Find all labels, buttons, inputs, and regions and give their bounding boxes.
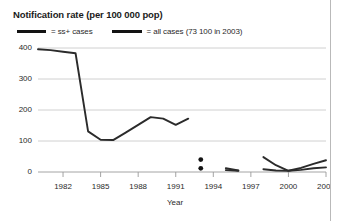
x-axis-tick-label: 1994 <box>196 182 230 191</box>
x-axis-tick-label: 2000 <box>271 182 305 191</box>
series-line <box>226 170 239 171</box>
gridlines <box>38 48 326 172</box>
data-markers-layer <box>198 157 203 170</box>
x-axis-tick-label: 1991 <box>159 182 193 191</box>
data-point-marker <box>198 157 203 162</box>
y-axis-tick-label: 200 <box>8 105 32 114</box>
y-axis-tick-label: 0 <box>8 167 32 176</box>
x-axis-tick-label: 1982 <box>46 182 80 191</box>
x-axis-tick-label: 1988 <box>121 182 155 191</box>
y-axis-tick-label: 300 <box>8 74 32 83</box>
x-axis-tick-label: 1997 <box>234 182 268 191</box>
y-axis-tick-label: 400 <box>8 43 32 52</box>
page-edge-line <box>330 0 331 221</box>
data-point-marker <box>198 166 203 171</box>
series-line <box>38 49 188 140</box>
chart-page: Notification rate (per 100 000 pop) = ss… <box>0 0 350 221</box>
x-axis-ticks <box>63 172 326 177</box>
page-margin <box>331 0 350 221</box>
y-axis-tick-label: 100 <box>8 136 32 145</box>
x-axis-title: Year <box>0 198 350 207</box>
x-axis-tick-label: 1985 <box>84 182 118 191</box>
